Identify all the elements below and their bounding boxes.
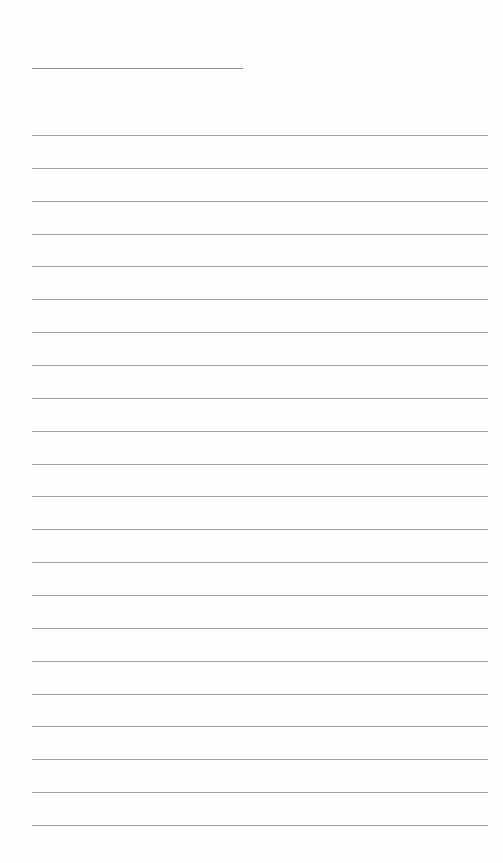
ruled-line: [32, 168, 488, 169]
ruled-line: [32, 135, 488, 136]
ruled-line: [32, 529, 488, 530]
ruled-line: [32, 332, 488, 333]
ruled-line: [32, 201, 488, 202]
ruled-line: [32, 595, 488, 596]
ruled-line: [32, 661, 488, 662]
ruled-line: [32, 266, 488, 267]
ruled-line: [32, 299, 488, 300]
ruled-line: [32, 234, 488, 235]
ruled-line: [32, 431, 488, 432]
ruled-line: [32, 398, 488, 399]
ruled-line: [32, 496, 488, 497]
ruled-lines: [32, 0, 488, 863]
ruled-line: [32, 726, 488, 727]
ruled-line: [32, 759, 488, 760]
ruled-line: [32, 365, 488, 366]
lined-paper-page: [0, 0, 503, 863]
ruled-line: [32, 562, 488, 563]
ruled-line: [32, 628, 488, 629]
ruled-line: [32, 694, 488, 695]
ruled-line: [32, 825, 488, 826]
ruled-line: [32, 464, 488, 465]
ruled-line: [32, 792, 488, 793]
